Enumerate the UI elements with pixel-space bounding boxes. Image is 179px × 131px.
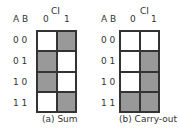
cell	[120, 51, 140, 71]
cell	[120, 92, 140, 112]
cell	[120, 72, 140, 92]
col-header-0: 0	[130, 14, 136, 24]
sum-map: CI A B 0 1 0 0 0 1 1 0 1 1 (a) Sum	[0, 0, 89, 131]
karnaugh-grid	[119, 30, 160, 113]
cell	[57, 92, 77, 112]
col-header-0: 0	[43, 14, 49, 24]
ci-label: CI	[140, 6, 149, 16]
col-header-1: 1	[64, 14, 70, 24]
ab-label: A B	[101, 14, 116, 24]
karnaugh-grid	[36, 30, 77, 113]
ci-label: CI	[51, 6, 60, 16]
cell	[57, 31, 77, 51]
cell	[57, 51, 77, 71]
cell	[37, 31, 57, 51]
cell	[120, 31, 140, 51]
carry-out-map: CI A B 0 1 0 0 0 1 1 0 1 1 (b) Carry-out	[89, 0, 178, 131]
cell	[140, 51, 160, 71]
caption: (b) Carry-out	[119, 114, 177, 124]
cell	[140, 31, 160, 51]
col-header-1: 1	[151, 14, 157, 24]
ab-label: A B	[13, 14, 28, 24]
cell	[140, 72, 160, 92]
cell	[37, 72, 57, 92]
cell	[37, 51, 57, 71]
cell	[57, 72, 77, 92]
cell	[140, 92, 160, 112]
caption: (a) Sum	[42, 114, 78, 124]
cell	[37, 92, 57, 112]
